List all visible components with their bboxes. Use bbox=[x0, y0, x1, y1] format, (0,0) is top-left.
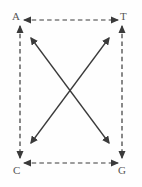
node-label-cytosine: C bbox=[13, 165, 20, 176]
node-label-adenine: A bbox=[12, 11, 20, 22]
node-label-thymine: T bbox=[120, 11, 127, 22]
nucleotide-substitution-diagram: A T C G bbox=[0, 0, 142, 187]
node-label-guanine: G bbox=[118, 165, 126, 176]
diagram-canvas bbox=[0, 0, 142, 187]
